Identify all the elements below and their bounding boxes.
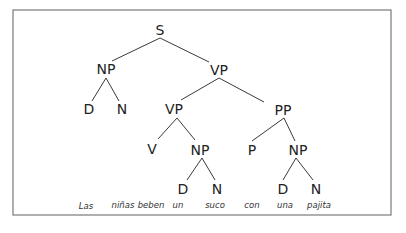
edge-np3-n3 bbox=[296, 158, 313, 180]
node-d3: D bbox=[278, 181, 289, 197]
node-vp1: VP bbox=[210, 62, 228, 78]
node-n1: N bbox=[117, 101, 127, 117]
edge-np2-n2 bbox=[202, 158, 215, 180]
node-n2: N bbox=[212, 181, 222, 197]
node-v: V bbox=[147, 141, 157, 157]
word-0: Las bbox=[79, 201, 94, 211]
node-vp2: VP bbox=[165, 101, 183, 117]
syntax-tree-diagram: SNPVPDNVPPPVNPPNPDNDN Lasniñasbebenunsuc… bbox=[0, 0, 406, 233]
word-4: suco bbox=[205, 200, 225, 210]
node-pp: PP bbox=[275, 102, 292, 118]
edge-vp1-vp2 bbox=[181, 78, 219, 100]
edge-pp-p bbox=[252, 118, 284, 141]
diagram-frame bbox=[13, 10, 391, 215]
word-1: niñas bbox=[112, 200, 135, 210]
node-np2: NP bbox=[191, 142, 210, 158]
sentence-words: Lasniñasbebenunsucoconunapajita bbox=[79, 200, 331, 211]
node-d1: D bbox=[84, 101, 95, 117]
edge-vp1-pp bbox=[219, 78, 264, 102]
edge-vp2-v bbox=[158, 118, 177, 139]
node-np1: NP bbox=[97, 61, 116, 77]
edge-np1-n1 bbox=[106, 78, 119, 101]
edge-pp-np3 bbox=[284, 118, 295, 141]
word-5: con bbox=[244, 200, 259, 210]
word-7: pajita bbox=[306, 200, 331, 210]
edge-s-np1 bbox=[112, 38, 160, 61]
edge-vp2-np2 bbox=[177, 118, 195, 140]
word-3: un bbox=[173, 200, 184, 210]
node-n3: N bbox=[311, 181, 321, 197]
node-d2: D bbox=[178, 181, 189, 197]
tree-nodes: SNPVPDNVPPPVNPPNPDNDN bbox=[84, 22, 322, 197]
node-p: P bbox=[248, 142, 256, 158]
word-2: beben bbox=[138, 200, 165, 210]
edge-np1-d1 bbox=[92, 78, 106, 101]
node-s: S bbox=[156, 22, 165, 38]
edge-s-vp1 bbox=[160, 38, 209, 62]
edge-np2-d2 bbox=[187, 158, 202, 180]
edge-np3-d3 bbox=[283, 158, 296, 180]
node-np3: NP bbox=[289, 142, 308, 158]
word-6: una bbox=[277, 200, 293, 210]
